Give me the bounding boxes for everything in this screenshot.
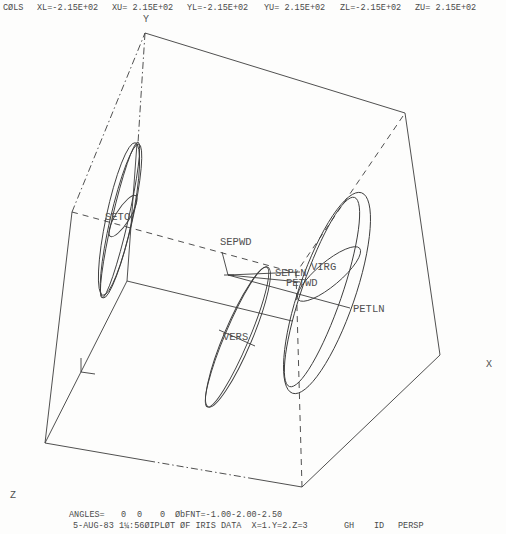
plot-edge-dashdot-line (138, 33, 145, 143)
header-yl: YL=-2.15E+02 (187, 4, 248, 13)
footer-info-line: 5-AUG-83 1¼:56ØIPLØT ØF IRIS DATA X=1.Y=… (73, 522, 308, 531)
footer-angle-2: 0 (137, 511, 142, 520)
plot-hidden-edge-line (296, 116, 403, 273)
footer-persp: PERSP (398, 522, 424, 531)
footer-id: ID (374, 522, 384, 531)
plot-edge-line (405, 113, 440, 355)
footer-gh: GH (344, 522, 354, 531)
footer-observer-point: ØbFNT=-1.00-2.00-2.50 (175, 511, 282, 520)
plot-edge-line (45, 443, 155, 462)
plot-edge-line (127, 281, 292, 321)
footer-angle-3: 0 (160, 511, 165, 520)
variable-label-sepwd: SEPWD (220, 237, 252, 248)
footer-angles-label: ANGLES= (69, 511, 105, 520)
plot-edge-line (45, 212, 72, 443)
header-yu: YU= 2.15E+02 (264, 4, 325, 13)
group-label-vers: VERS (223, 332, 248, 343)
plot-edge-line (255, 479, 302, 487)
iris-3d-plot (0, 0, 506, 534)
plot-edge-line (81, 372, 95, 374)
group-ellipse (271, 191, 374, 393)
plot-edge-line (302, 355, 440, 487)
plot-edge-line (45, 281, 127, 443)
header-zu: ZU= 2.15E+02 (415, 4, 476, 13)
variable-label-petln: PETLN (353, 304, 385, 315)
header-xu: XU= 2.15E+02 (112, 4, 173, 13)
footer-angle-1: 0 (121, 511, 126, 520)
z-axis-label: Z (10, 491, 16, 501)
header-zl: ZL=-2.15E+02 (340, 4, 401, 13)
variable-label-petwd: PETWD (286, 278, 318, 289)
plot-canvas: CØLS XL=-2.15E+02 XU= 2.15E+02 YL=-2.15E… (0, 0, 506, 534)
header-cols: CØLS (3, 4, 23, 13)
plot-edge-line (222, 252, 228, 275)
x-axis-label: X (486, 360, 492, 370)
plot-edge-line (145, 33, 405, 113)
group-label-virg: VIRG (311, 262, 336, 273)
header-xl: XL=-2.15E+02 (37, 4, 98, 13)
group-label-seto: SETO (105, 212, 130, 223)
y-axis-label: Y (143, 15, 149, 25)
plot-edge-dashdot-line (155, 462, 255, 479)
